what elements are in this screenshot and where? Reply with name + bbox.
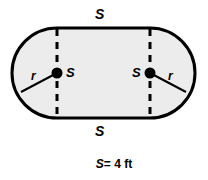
dimension-row: S= 4 ft — [0, 142, 208, 180]
label-right-center: S — [132, 66, 141, 79]
right-center-dot — [145, 68, 156, 79]
left-center-dot — [52, 68, 63, 79]
dimension-symbol: S — [96, 157, 104, 171]
label-left-center: S — [66, 66, 75, 79]
label-right-radius: r — [168, 70, 173, 82]
dimension-legend: S= 4 ft r= 2 ft — [0, 142, 208, 180]
label-side-top: S — [95, 7, 104, 21]
label-side-bottom: S — [95, 124, 104, 138]
geometry-figure: S S S S r r S= 4 ft r= 2 ft — [0, 0, 208, 180]
dimension-equals: = — [104, 157, 111, 171]
dimension-value: 4 ft — [114, 157, 132, 171]
label-left-radius: r — [31, 70, 36, 82]
